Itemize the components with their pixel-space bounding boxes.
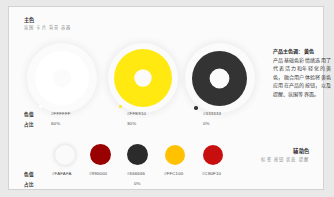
primary-ratio-3: 0% <box>203 121 210 126</box>
palette-card: 主色 氛围 卡片 背景 容器 辅助色 标签 按钮 状态 提醒 产品主色调：黄色 … <box>8 6 324 190</box>
note-body: 产品基础色彩情绪选用了代表活力和年轻化的黄色，融合用户体验将黄色应用在产品的按钮… <box>273 56 331 99</box>
primary-swatch-1 <box>23 43 103 111</box>
primary-ratio-label: 占比 <box>24 121 34 127</box>
aux-swatch-4 <box>165 145 185 165</box>
primary-swatch-2 <box>104 43 184 111</box>
aux-hex-1: #FAFAFA <box>52 171 72 176</box>
auxiliary-section-title: 辅助色 <box>293 147 309 154</box>
donut-ring-3 <box>192 51 247 106</box>
donut-ring-2 <box>114 49 172 107</box>
donut-ring-1 <box>35 51 89 105</box>
aux-hex-2: #990000 <box>89 171 107 176</box>
auxiliary-section-subtitle: 标签 按钮 状态 提醒 <box>261 156 309 162</box>
primary-hex-3: #333333 <box>203 111 221 116</box>
note-block: 产品主色调：黄色 产品基础色彩情绪选用了代表活力和年轻化的黄色，融合用户体验将黄… <box>273 47 331 99</box>
aux-swatch-3 <box>127 144 148 165</box>
aux-swatch-1 <box>55 145 75 165</box>
donut-dot-2 <box>119 105 122 108</box>
donut-dot-1 <box>39 105 42 108</box>
aux-hex-5: #C80F10 <box>202 171 221 176</box>
aux-hex-4: #FFC100 <box>164 171 183 176</box>
primary-ratio-1: 60% <box>51 121 60 126</box>
primary-swatch-3 <box>181 43 263 113</box>
auxiliary-color-value-label: 色值 <box>24 171 34 177</box>
primary-hex-2: #FFE910 <box>127 111 146 116</box>
primary-hex-1: #FFFFFF <box>51 111 71 116</box>
aux-hex-3: #666666 <box>127 171 145 176</box>
note-title: 产品主色调：黄色 <box>273 47 331 56</box>
primary-section-title: 主色 <box>24 16 34 23</box>
aux-swatch-2 <box>90 144 111 165</box>
aux-ratio-3: 0% <box>134 181 141 186</box>
aux-swatch-5 <box>203 145 223 165</box>
donut-dot-3 <box>194 106 198 110</box>
primary-section-subtitle: 氛围 卡片 背景 容器 <box>24 24 72 30</box>
auxiliary-ratio-label: 占比 <box>24 181 34 187</box>
primary-ratio-2: 30% <box>127 121 136 126</box>
slide-canvas: 主色 氛围 卡片 背景 容器 辅助色 标签 按钮 状态 提醒 产品主色调：黄色 … <box>0 0 334 197</box>
primary-color-value-label: 色值 <box>24 111 34 117</box>
